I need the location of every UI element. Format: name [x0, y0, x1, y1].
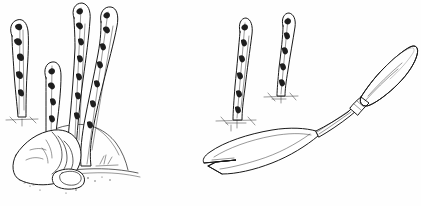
illustration-canvas: Asparagus harvesting: [0, 0, 421, 206]
asparagus-harvesting-illustration: [0, 0, 421, 206]
